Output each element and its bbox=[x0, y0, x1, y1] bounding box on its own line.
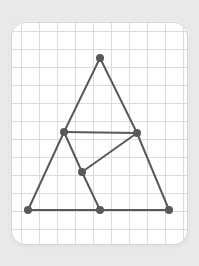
edge-mid-right-to-bottom-right bbox=[137, 133, 169, 210]
edge-mid-left-to-center bbox=[64, 132, 82, 172]
mid-left-vertex bbox=[60, 128, 68, 136]
edge-mid-left-to-bottom-left bbox=[28, 132, 64, 210]
edge-apex-to-mid-right bbox=[100, 58, 137, 133]
triangle-line-figure bbox=[12, 23, 188, 245]
bottom-right-vertex bbox=[165, 206, 173, 214]
mid-right-vertex bbox=[133, 129, 141, 137]
bottom-middle-vertex bbox=[96, 206, 104, 214]
figure-edges-group bbox=[28, 58, 169, 210]
edge-mid-left-to-mid-right bbox=[64, 132, 137, 133]
top-apex-vertex bbox=[96, 54, 104, 62]
grid-paper-card bbox=[11, 22, 188, 245]
edge-center-to-bottom-mid bbox=[82, 172, 100, 210]
figure-vertices-group bbox=[24, 54, 173, 214]
center-vertex bbox=[78, 168, 86, 176]
edge-apex-to-mid-left bbox=[64, 58, 100, 132]
edge-center-to-mid-right bbox=[82, 133, 137, 172]
bottom-left-vertex bbox=[24, 206, 32, 214]
app-root bbox=[0, 0, 199, 266]
